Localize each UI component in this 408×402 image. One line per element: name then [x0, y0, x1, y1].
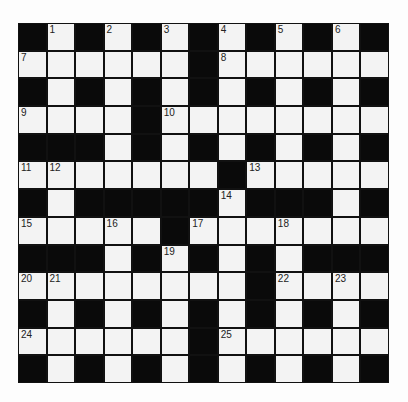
- letter-cell[interactable]: [76, 52, 103, 78]
- letter-cell[interactable]: [219, 79, 246, 105]
- letter-cell[interactable]: [162, 356, 189, 382]
- letter-cell[interactable]: [276, 107, 303, 133]
- letter-cell[interactable]: 18: [276, 218, 303, 244]
- letter-cell[interactable]: [162, 162, 189, 188]
- letter-cell[interactable]: [133, 218, 160, 244]
- letter-cell[interactable]: [162, 301, 189, 327]
- letter-cell[interactable]: [361, 329, 388, 355]
- letter-cell[interactable]: 13: [247, 162, 274, 188]
- letter-cell[interactable]: 17: [190, 218, 217, 244]
- letter-cell[interactable]: [219, 356, 246, 382]
- letter-cell[interactable]: [133, 273, 160, 299]
- letter-cell[interactable]: [247, 329, 274, 355]
- letter-cell[interactable]: [105, 107, 132, 133]
- letter-cell[interactable]: [276, 246, 303, 272]
- letter-cell[interactable]: [105, 52, 132, 78]
- letter-cell[interactable]: 9: [19, 107, 46, 133]
- letter-cell[interactable]: [304, 218, 331, 244]
- letter-cell[interactable]: [190, 107, 217, 133]
- letter-cell[interactable]: [76, 107, 103, 133]
- letter-cell[interactable]: [361, 52, 388, 78]
- letter-cell[interactable]: [48, 301, 75, 327]
- letter-cell[interactable]: [247, 107, 274, 133]
- letter-cell[interactable]: [162, 79, 189, 105]
- letter-cell[interactable]: [276, 79, 303, 105]
- letter-cell[interactable]: [133, 329, 160, 355]
- letter-cell[interactable]: [333, 162, 360, 188]
- letter-cell[interactable]: [76, 329, 103, 355]
- letter-cell[interactable]: [105, 301, 132, 327]
- letter-cell[interactable]: [133, 162, 160, 188]
- letter-cell[interactable]: [333, 79, 360, 105]
- letter-cell[interactable]: 15: [19, 218, 46, 244]
- letter-cell[interactable]: [162, 273, 189, 299]
- letter-cell[interactable]: [105, 135, 132, 161]
- letter-cell[interactable]: [276, 301, 303, 327]
- letter-cell[interactable]: [304, 52, 331, 78]
- letter-cell[interactable]: [276, 329, 303, 355]
- letter-cell[interactable]: [304, 329, 331, 355]
- letter-cell[interactable]: [247, 218, 274, 244]
- letter-cell[interactable]: [48, 52, 75, 78]
- letter-cell[interactable]: 25: [219, 329, 246, 355]
- letter-cell[interactable]: [276, 135, 303, 161]
- letter-cell[interactable]: [219, 273, 246, 299]
- letter-cell[interactable]: [133, 52, 160, 78]
- letter-cell[interactable]: [105, 162, 132, 188]
- letter-cell[interactable]: 2: [105, 24, 132, 50]
- letter-cell[interactable]: 12: [48, 162, 75, 188]
- letter-cell[interactable]: 6: [333, 24, 360, 50]
- letter-cell[interactable]: 21: [48, 273, 75, 299]
- letter-cell[interactable]: [333, 218, 360, 244]
- letter-cell[interactable]: [219, 246, 246, 272]
- letter-cell[interactable]: [276, 162, 303, 188]
- letter-cell[interactable]: [219, 218, 246, 244]
- letter-cell[interactable]: [162, 135, 189, 161]
- letter-cell[interactable]: [76, 218, 103, 244]
- letter-cell[interactable]: 4: [219, 24, 246, 50]
- letter-cell[interactable]: [162, 329, 189, 355]
- letter-cell[interactable]: [162, 52, 189, 78]
- letter-cell[interactable]: [105, 246, 132, 272]
- letter-cell[interactable]: [48, 79, 75, 105]
- letter-cell[interactable]: 23: [333, 273, 360, 299]
- letter-cell[interactable]: [105, 329, 132, 355]
- letter-cell[interactable]: 20: [19, 273, 46, 299]
- letter-cell[interactable]: [105, 273, 132, 299]
- letter-cell[interactable]: 24: [19, 329, 46, 355]
- letter-cell[interactable]: [76, 273, 103, 299]
- letter-cell[interactable]: [48, 190, 75, 216]
- letter-cell[interactable]: [276, 52, 303, 78]
- letter-cell[interactable]: 3: [162, 24, 189, 50]
- letter-cell[interactable]: [190, 273, 217, 299]
- letter-cell[interactable]: [361, 107, 388, 133]
- letter-cell[interactable]: [276, 356, 303, 382]
- letter-cell[interactable]: [333, 356, 360, 382]
- letter-cell[interactable]: 22: [276, 273, 303, 299]
- letter-cell[interactable]: [219, 107, 246, 133]
- letter-cell[interactable]: [333, 329, 360, 355]
- letter-cell[interactable]: [105, 356, 132, 382]
- letter-cell[interactable]: 19: [162, 246, 189, 272]
- letter-cell[interactable]: [304, 107, 331, 133]
- letter-cell[interactable]: [48, 356, 75, 382]
- letter-cell[interactable]: 8: [219, 52, 246, 78]
- letter-cell[interactable]: [333, 135, 360, 161]
- letter-cell[interactable]: 10: [162, 107, 189, 133]
- letter-cell[interactable]: [304, 273, 331, 299]
- letter-cell[interactable]: [333, 190, 360, 216]
- letter-cell[interactable]: [76, 162, 103, 188]
- letter-cell[interactable]: [105, 79, 132, 105]
- letter-cell[interactable]: [48, 329, 75, 355]
- letter-cell[interactable]: [190, 162, 217, 188]
- letter-cell[interactable]: [304, 162, 331, 188]
- letter-cell[interactable]: [333, 107, 360, 133]
- letter-cell[interactable]: 14: [219, 190, 246, 216]
- letter-cell[interactable]: [361, 162, 388, 188]
- letter-cell[interactable]: [361, 218, 388, 244]
- letter-cell[interactable]: [333, 52, 360, 78]
- letter-cell[interactable]: 16: [105, 218, 132, 244]
- letter-cell[interactable]: 5: [276, 24, 303, 50]
- letter-cell[interactable]: 7: [19, 52, 46, 78]
- letter-cell[interactable]: 1: [48, 24, 75, 50]
